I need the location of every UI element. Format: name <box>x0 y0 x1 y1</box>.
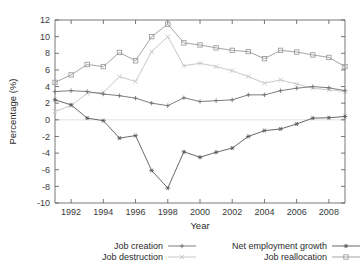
data-point-marker <box>262 93 266 97</box>
legend-entry-net-employment-growth[interactable]: Net employment growth <box>232 241 360 251</box>
y-tick-label: 6 <box>45 65 50 75</box>
x-tick-label: 1994 <box>93 207 113 217</box>
y-tick-label: 8 <box>45 48 50 58</box>
data-point-marker <box>230 98 234 102</box>
legend-entry-job-reallocation[interactable]: Job reallocation <box>264 252 360 262</box>
data-point-marker <box>214 98 218 102</box>
data-point-marker <box>198 155 203 159</box>
data-point-marker <box>344 244 349 248</box>
data-point-marker <box>262 129 267 133</box>
y-tick-label: 2 <box>45 98 50 108</box>
data-point-marker <box>294 86 298 90</box>
legend-label: Net employment growth <box>232 241 327 251</box>
series-job-reallocation <box>53 22 347 85</box>
x-tick-label: 2006 <box>287 207 307 217</box>
series-line <box>55 24 345 82</box>
y-tick-label: 10 <box>40 32 50 42</box>
data-point-marker <box>198 99 202 103</box>
legend-entry-job-destruction[interactable]: Job destruction <box>102 252 196 262</box>
data-point-marker <box>166 34 170 38</box>
y-axis-title: Percentage (%) <box>7 78 18 144</box>
data-point-marker <box>182 96 186 100</box>
series-job-creation <box>53 84 347 108</box>
y-tick-label: -4 <box>42 148 50 158</box>
data-point-marker <box>149 101 153 105</box>
data-point-marker <box>278 127 283 131</box>
x-tick-label: 1998 <box>158 207 178 217</box>
legend-label: Job creation <box>114 241 163 251</box>
x-tick-label: 2008 <box>319 207 339 217</box>
data-point-marker <box>246 74 250 78</box>
data-point-marker <box>117 74 121 78</box>
x-tick-label: 2000 <box>190 207 210 217</box>
x-tick-label: 2004 <box>254 207 274 217</box>
y-tick-label: -8 <box>42 182 50 192</box>
data-point-marker <box>343 89 347 93</box>
y-tick-label: -6 <box>42 165 50 175</box>
data-point-marker <box>180 244 184 248</box>
data-point-marker <box>182 150 187 154</box>
legend-entry-job-creation[interactable]: Job creation <box>114 241 196 251</box>
x-tick-label: 1992 <box>61 207 81 217</box>
x-axis-title: Year <box>190 220 209 231</box>
data-point-marker <box>133 79 137 83</box>
data-point-marker <box>166 103 170 107</box>
data-point-marker <box>69 89 73 93</box>
y-tick-label: 0 <box>45 115 50 125</box>
series-line <box>55 100 345 188</box>
y-tick-label: 4 <box>45 82 50 92</box>
legend-label: Job reallocation <box>264 252 327 262</box>
data-point-marker <box>278 89 282 93</box>
legend-label: Job destruction <box>102 252 163 262</box>
data-point-marker <box>327 116 332 120</box>
data-point-marker <box>246 93 250 97</box>
x-tick-label: 1996 <box>126 207 146 217</box>
data-point-marker <box>214 150 219 154</box>
data-point-marker <box>133 96 137 100</box>
y-tick-label: 12 <box>40 15 50 25</box>
data-point-marker <box>117 93 121 97</box>
y-tick-label: -10 <box>37 198 50 208</box>
data-point-marker <box>149 49 153 53</box>
chart-container: 121086420-2-4-6-8-1019921994199619982000… <box>0 0 362 271</box>
x-tick-label: 2002 <box>222 207 242 217</box>
line-chart: 121086420-2-4-6-8-1019921994199619982000… <box>0 0 362 271</box>
data-point-marker <box>294 122 299 126</box>
data-point-marker <box>133 134 138 138</box>
data-point-marker <box>53 89 57 93</box>
y-tick-label: -2 <box>42 132 50 142</box>
series-net-employment-growth <box>53 98 348 190</box>
